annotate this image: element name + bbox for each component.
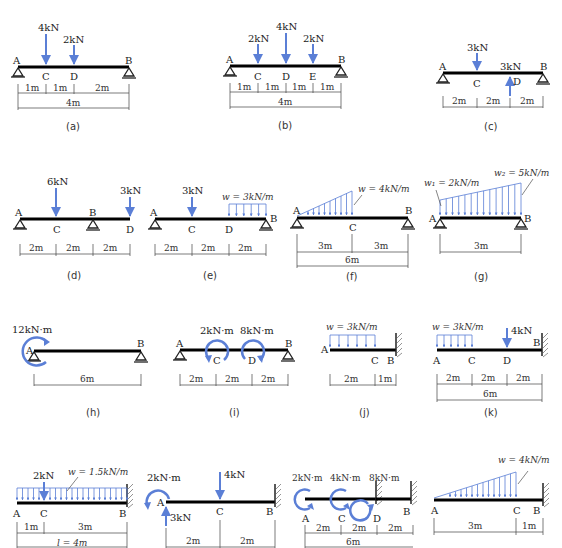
pin-support-icon [290,219,304,228]
dim-label: 2m [29,243,44,253]
dim-label: 1m [24,522,39,532]
fixed-wall-icon [396,333,402,357]
figure-caption: (i) [229,407,240,418]
figure-h: 12kN·m A B 6m (h) [12,324,148,418]
figure-l: 2kN w = 1.5kN/m A C B 1m 3m l = 4m [12,467,133,548]
figure-j: w = 3kN/m A C B 2m 1m (j) [320,322,402,418]
point-label: A [428,213,437,224]
dim-label: 2m [481,373,496,383]
point-label: B [387,355,394,366]
triangular-load-icon [297,191,352,216]
point-label: B [119,508,126,519]
dim-label: 1m [237,82,252,92]
roller-support-icon [401,219,415,229]
load-label: w = 1.5kN/m [68,467,128,477]
point-label: B [89,207,96,218]
point-label: C [53,224,61,235]
load-label: w = 4kN/m [498,455,550,465]
load-label: 12kN·m [12,324,53,335]
load-label: w = 4kN/m [358,184,410,194]
point-label: B [270,213,277,224]
load-label: 3kN [467,42,488,53]
load-label: 4kN [511,325,532,336]
dim-label: 2m [486,96,501,106]
point-label: A [12,508,21,519]
point-label: B [338,54,345,65]
dim-label: 1m [53,83,68,93]
load-label: 8kN·m [369,473,400,483]
figure-caption: (k) [484,407,498,418]
figure-caption: (e) [203,270,217,281]
uniform-load-icon [330,335,375,347]
point-label: C [216,506,224,517]
fixed-wall-icon [127,484,133,508]
point-label: C [371,355,379,366]
roller-support-icon [536,74,550,84]
leader-line [67,477,78,491]
point-label: A [438,61,447,72]
dim-label: 6m [483,389,498,399]
point-label: C [349,222,357,233]
dim-label: 2m [225,374,240,384]
dim-label: 2m [238,243,253,253]
point-label: B [403,506,410,517]
dim-label: 2m [103,243,118,253]
leader-line [354,195,362,205]
dim-label: 1m [522,521,537,531]
point-label: A [149,207,158,218]
dim-label: 2m [452,96,467,106]
load-label: 6kN [47,176,68,187]
dim-label: 2m [446,373,461,383]
point-label: B [137,338,144,349]
load-label: 3kN [120,185,141,196]
roller-support-icon [281,351,295,361]
figure-n: 2kN·m 4kN·m 8kN·m A C D 2m 2m 2m 6m [292,473,403,548]
point-label: A [156,497,165,508]
dim-label: 6m [346,537,361,547]
figure-caption: (b) [278,120,292,131]
moment-arrowhead-icon [257,355,264,363]
point-label: C [468,355,476,366]
load-label: w₂ = 5kN/m [494,168,549,178]
moment-arrowhead-icon [44,338,50,346]
point-label: E [309,71,316,82]
load-label: w = 3kN/m [222,192,274,202]
load-label: w = 3kN/m [432,322,484,332]
point-label: A [12,55,21,66]
dim-label: 2m [316,523,331,533]
point-label: B [533,337,540,348]
load-label: 4kN [224,469,245,480]
load-label: w = 3kN/m [326,322,378,332]
figure-e: 3kN w = 3kN/m A C D B 2m 2m 2m (e) [148,185,277,281]
moment-arrowhead-icon [205,355,212,363]
point-label: D [248,355,256,366]
dim-label: 4m [278,97,293,107]
figure-g: w₁ = 2kN/m w₂ = 5kN/m A B 3m (g) [424,168,549,282]
load-label: 4kN [38,22,59,33]
figure-c: 3kN 3kN A C D B 2m 2m 2m (c) [436,42,550,132]
point-label: A [292,205,301,216]
dim-label: 3m [474,241,489,251]
dim-label: 2m [95,83,110,93]
point-label: A [25,345,34,356]
leader-line [518,471,528,484]
load-label: 3kN [170,512,191,523]
roller-support-icon [334,67,348,77]
point-label: B [266,506,273,517]
load-label: 2kN·m [292,473,323,483]
point-label: D [126,224,134,235]
dim-label: 3m [318,241,333,251]
dim-label: 4m [66,98,81,108]
dim-label: 2m [352,523,367,533]
figure-caption: (j) [359,407,370,418]
dim-label: 2m [344,374,359,384]
fixed-wall-icon [543,483,549,507]
point-label: A [320,344,329,355]
load-label: 2kN [63,34,84,45]
dim-label: 2m [66,243,81,253]
figure-i: 2kN·m 8kN·m A C D B 2m 2m 2m (i) [173,325,295,418]
pin-support-icon [436,74,450,83]
point-label: C [40,508,48,519]
point-label: B [125,55,132,66]
dim-label: 3m [78,522,93,532]
